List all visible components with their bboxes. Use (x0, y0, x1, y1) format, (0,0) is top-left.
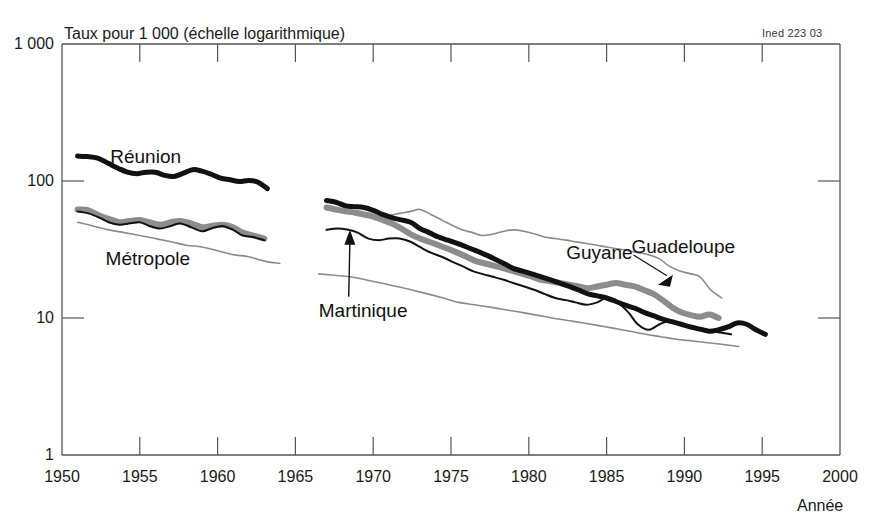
series-line-guadeloupe (78, 209, 265, 238)
guadeloupe-leader-line (633, 255, 666, 276)
x-tick-label: 2000 (805, 469, 875, 485)
y-tick-label: 1 (0, 447, 54, 463)
x-tick-label: 1975 (416, 469, 486, 485)
x-tick-label: 1985 (572, 469, 642, 485)
x-tick-label: 1980 (494, 469, 564, 485)
annotation-runion: Réunion (110, 147, 181, 166)
annotation-guyane: Guyane (566, 243, 633, 262)
x-tick-label: 1990 (649, 469, 719, 485)
y-tick-label: 100 (0, 173, 54, 189)
guadeloupe-arrowhead (658, 275, 673, 287)
annotation-guadeloupe: Guadeloupe (631, 237, 735, 256)
x-tick-label: 1950 (27, 469, 97, 485)
y-tick-label: 1 000 (0, 36, 54, 52)
x-tick-label: 1970 (338, 469, 408, 485)
martinique-leader-line (349, 242, 350, 297)
annotation-mtropole: Métropole (106, 249, 191, 268)
y-tick-label: 10 (0, 310, 54, 326)
x-tick-label: 1995 (727, 469, 797, 485)
x-tick-label: 1965 (260, 469, 330, 485)
x-tick-label: 1960 (183, 469, 253, 485)
annotation-martinique: Martinique (319, 301, 408, 320)
chart-figure: Taux pour 1 000 (échelle logarithmique) … (0, 0, 878, 528)
x-tick-label: 1955 (105, 469, 175, 485)
